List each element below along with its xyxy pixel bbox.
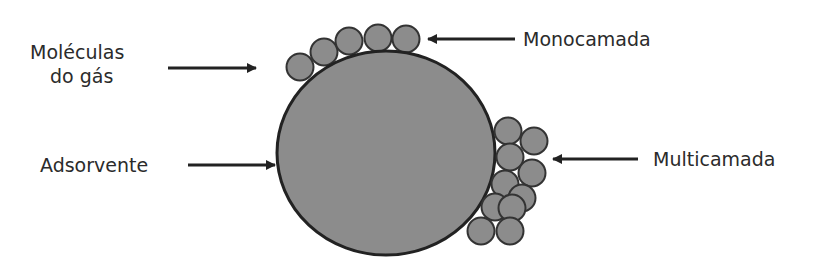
multilayer-molecule bbox=[521, 128, 548, 155]
monolayer-molecule bbox=[393, 26, 420, 53]
monolayer-label: Monocamada bbox=[523, 27, 651, 51]
monolayer-molecule bbox=[336, 28, 363, 55]
multilayer-molecule bbox=[519, 160, 546, 187]
multilayer-molecule bbox=[468, 218, 495, 245]
adsorbent-circle bbox=[277, 51, 495, 255]
monolayer-molecule bbox=[287, 54, 314, 81]
gas-molecules-label: Moléculas do gás bbox=[30, 40, 124, 88]
multilayer-molecule bbox=[495, 118, 522, 145]
multilayer-label: Multicamada bbox=[653, 147, 775, 171]
monolayer-molecule bbox=[311, 39, 338, 66]
monolayer-molecule bbox=[365, 25, 392, 52]
adsorption-diagram bbox=[0, 0, 832, 267]
adsorbent-label: Adsorvente bbox=[40, 153, 148, 177]
gas-molecules-label-line1: Moléculas bbox=[30, 40, 124, 64]
multilayer-molecule bbox=[497, 218, 524, 245]
gas-molecules-label-line2: do gás bbox=[30, 64, 124, 88]
